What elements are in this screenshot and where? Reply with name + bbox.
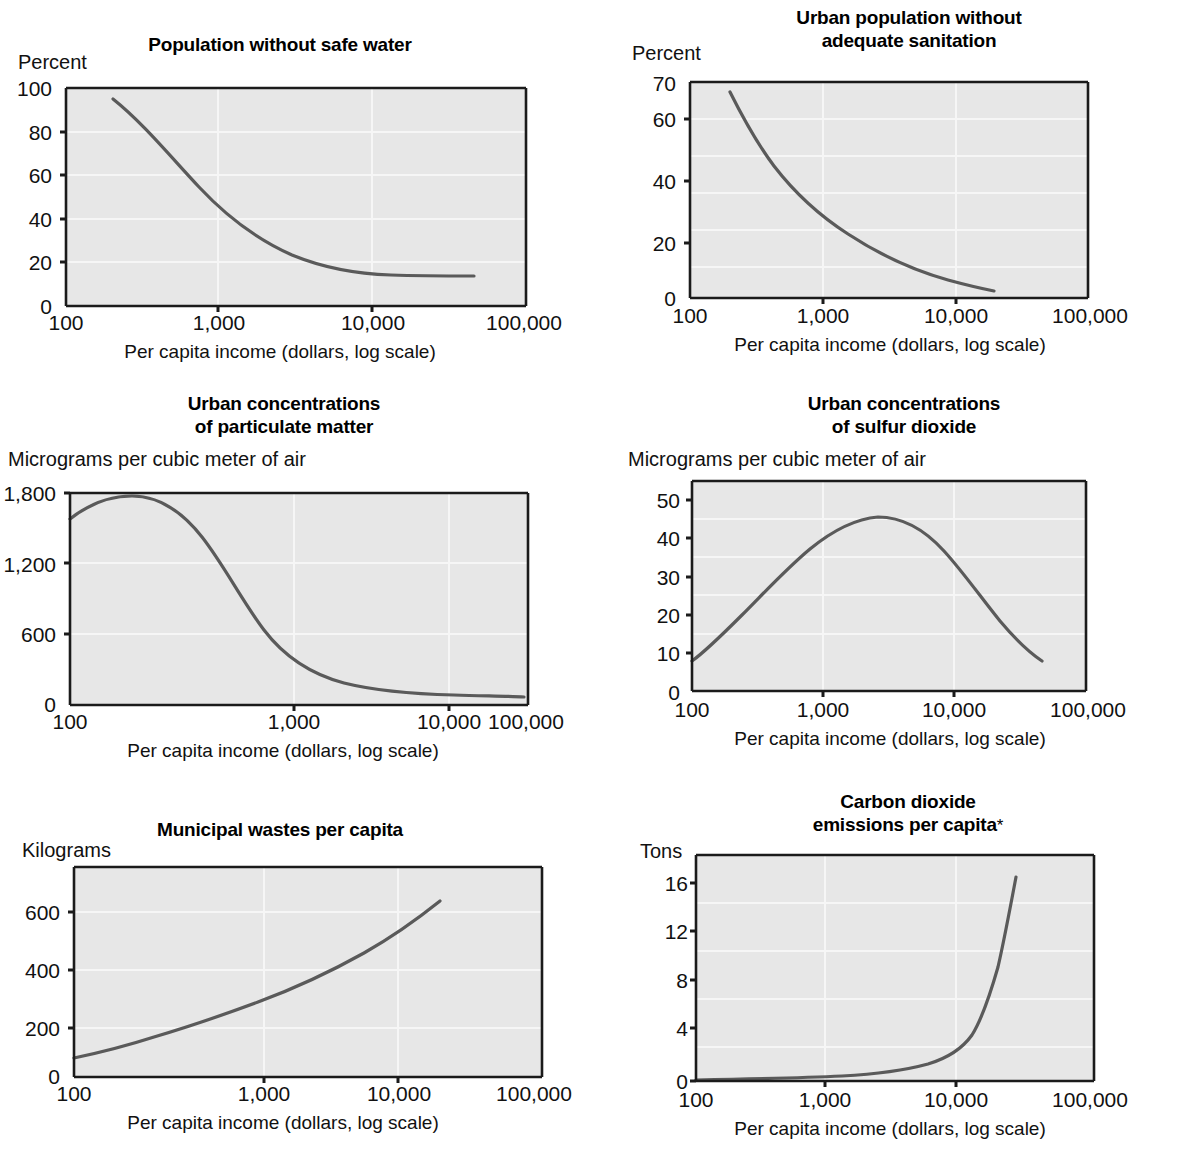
y-tick-label: 1,800 xyxy=(0,483,56,504)
chart-panel-carbon-dioxide-emissions-per-capita: Carbon dioxide emissions per capita* Ton… xyxy=(598,780,1196,1163)
chart-panel-urban-concentrations-of-particulate-matter: Urban concentrations of particulate matt… xyxy=(0,380,598,780)
y-tick-label: 30 xyxy=(636,567,680,588)
y-tick-label: 20 xyxy=(8,252,52,273)
y-tick-label: 40 xyxy=(636,528,680,549)
plot-area xyxy=(690,849,1100,1087)
y-axis-unit-label: Kilograms xyxy=(22,839,111,862)
chart-title: Population without safe water xyxy=(30,33,530,56)
x-axis-caption: Per capita income (dollars, log scale) xyxy=(40,341,520,363)
y-tick-label: 400 xyxy=(12,960,60,981)
x-tick-label: 1,000 xyxy=(779,699,867,720)
x-tick-label: 10,000 xyxy=(352,1083,446,1104)
x-tick-label: 10,000 xyxy=(326,312,420,333)
x-tick-label: 100 xyxy=(32,312,100,333)
y-tick-label: 600 xyxy=(12,902,60,923)
y-axis-unit-label: Percent xyxy=(632,42,701,65)
x-axis-caption: Per capita income (dollars, log scale) xyxy=(48,1112,518,1134)
x-tick-label: 10,000 xyxy=(907,699,1001,720)
x-tick-label: 1,000 xyxy=(175,312,263,333)
chart-title: Urban population without adequate sanita… xyxy=(694,6,1124,52)
x-axis-caption: Per capita income (dollars, log scale) xyxy=(48,740,518,762)
y-tick-label: 80 xyxy=(8,122,52,143)
chart-panel-population-without-safe-water: Population without safe water Percent xyxy=(0,0,598,380)
y-axis-unit-label: Micrograms per cubic meter of air xyxy=(628,448,926,471)
chart-panel-municipal-wastes-per-capita: Municipal wastes per capita Kilograms 60… xyxy=(0,780,598,1163)
x-tick-label: 100 xyxy=(40,1083,108,1104)
x-tick-label: 1,000 xyxy=(779,305,867,326)
y-axis-unit-label: Micrograms per cubic meter of air xyxy=(8,448,306,471)
x-tick-label: 100,000 xyxy=(1032,699,1144,720)
plot-area xyxy=(64,487,534,711)
chart-title: Urban concentrations of sulfur dioxide xyxy=(704,392,1104,438)
footnote-asterisk-marker: * xyxy=(997,816,1003,835)
x-tick-label: 100,000 xyxy=(470,711,582,732)
y-tick-label: 600 xyxy=(0,624,56,645)
y-tick-label: 20 xyxy=(636,605,680,626)
y-tick-label: 200 xyxy=(12,1018,60,1039)
y-tick-label: 70 xyxy=(632,73,676,94)
y-tick-label: 12 xyxy=(644,921,688,942)
x-tick-label: 100 xyxy=(662,1089,730,1110)
y-tick-label: 100 xyxy=(8,78,52,99)
chart-title: Municipal wastes per capita xyxy=(70,818,490,841)
x-axis-caption: Per capita income (dollars, log scale) xyxy=(660,728,1120,750)
plot-area xyxy=(68,861,548,1083)
x-tick-label: 100,000 xyxy=(1034,305,1146,326)
x-tick-label: 1,000 xyxy=(781,1089,869,1110)
y-tick-label: 40 xyxy=(8,209,52,230)
y-tick-label: 4 xyxy=(644,1018,688,1039)
y-tick-label: 50 xyxy=(636,490,680,511)
plot-area xyxy=(684,76,1094,304)
x-tick-label: 100,000 xyxy=(478,1083,590,1104)
x-tick-label: 100 xyxy=(658,699,726,720)
x-axis-caption: Per capita income (dollars, log scale) xyxy=(660,334,1120,356)
x-tick-label: 100,000 xyxy=(1034,1089,1146,1110)
chart-title: Carbon dioxide emissions per capita* xyxy=(698,790,1118,837)
y-tick-label: 60 xyxy=(8,165,52,186)
y-tick-label: 20 xyxy=(632,233,676,254)
x-tick-label: 100 xyxy=(36,711,104,732)
x-axis-caption: Per capita income (dollars, log scale) xyxy=(660,1118,1120,1140)
y-tick-label: 40 xyxy=(632,171,676,192)
x-tick-label: 1,000 xyxy=(250,711,338,732)
x-tick-label: 10,000 xyxy=(909,1089,1003,1110)
chart-panel-urban-population-without-adequate-sanitation: Urban population without adequate sanita… xyxy=(598,0,1196,380)
plot-area xyxy=(60,82,530,312)
chart-panel-urban-concentrations-of-sulfur-dioxide: Urban concentrations of sulfur dioxide M… xyxy=(598,380,1196,780)
plot-area xyxy=(686,475,1092,697)
y-tick-label: 60 xyxy=(632,109,676,130)
chart-title-text: Carbon dioxide emissions per capita xyxy=(813,791,997,835)
y-tick-label: 1,200 xyxy=(0,554,56,575)
y-axis-unit-label: Percent xyxy=(18,51,87,74)
x-tick-label: 10,000 xyxy=(909,305,1003,326)
chart-title: Urban concentrations of particulate matt… xyxy=(84,392,484,438)
y-tick-label: 8 xyxy=(644,970,688,991)
x-tick-label: 100 xyxy=(656,305,724,326)
y-axis-unit-label: Tons xyxy=(640,840,682,863)
x-tick-label: 100,000 xyxy=(468,312,580,333)
y-tick-label: 10 xyxy=(636,643,680,664)
y-tick-label: 16 xyxy=(644,873,688,894)
x-tick-label: 1,000 xyxy=(220,1083,308,1104)
